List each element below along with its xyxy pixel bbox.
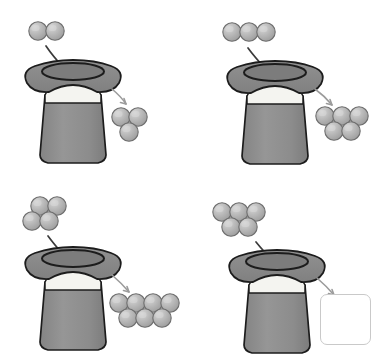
answer-box[interactable] xyxy=(320,294,371,345)
input-ball-group xyxy=(213,203,265,236)
output-ball-group xyxy=(110,294,179,327)
puzzle-board xyxy=(0,0,388,356)
arrow-out-of-hat xyxy=(112,89,126,104)
arrow-out-of-hat xyxy=(317,278,334,295)
input-ball-group xyxy=(23,197,66,230)
panel-bottom-right xyxy=(213,203,334,353)
magic-hat-icon xyxy=(25,247,121,350)
panel-bottom-left xyxy=(23,197,179,350)
magic-hat-icon xyxy=(229,250,325,353)
output-ball-group xyxy=(316,107,368,140)
arrow-out-of-hat xyxy=(112,275,129,292)
output-ball-group xyxy=(112,108,147,141)
panel-top-left xyxy=(25,22,147,163)
arrow-out-of-hat xyxy=(315,89,332,105)
magic-hat-icon xyxy=(25,60,121,163)
input-ball-group xyxy=(223,23,275,41)
input-ball-group xyxy=(29,22,64,40)
panel-top-right xyxy=(223,23,368,164)
magic-hat-icon xyxy=(227,61,323,164)
